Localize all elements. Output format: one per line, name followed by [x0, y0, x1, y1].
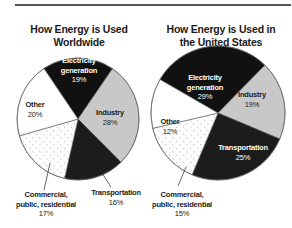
label-commercial-worldwide: Commercial, public, residential 17% [12, 190, 80, 219]
label-transportation-us: Transportation 25% [214, 143, 272, 162]
label-industry-worldwide: Industry 28% [88, 108, 132, 127]
label-industry-us: Industry 19% [232, 90, 272, 109]
label-commercial-us: Commercial, public, residential 15% [148, 190, 216, 219]
label-other-us: Other 12% [155, 117, 185, 136]
label-other-worldwide: Other 20% [18, 100, 52, 119]
label-electricity-worldwide: Electricity generation 19% [57, 56, 101, 85]
label-transportation-worldwide: Transportation 16% [88, 188, 144, 207]
label-electricity-us: Electricity generation 29% [183, 73, 227, 102]
